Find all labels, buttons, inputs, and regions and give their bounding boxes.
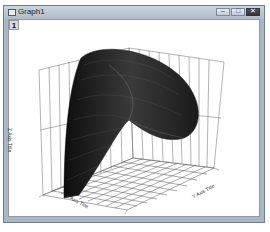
- title-bar[interactable]: Graph1 – □ ✕: [4, 6, 264, 19]
- window-title: Graph1: [18, 7, 45, 16]
- close-icon: ✕: [247, 7, 259, 15]
- minimize-button[interactable]: –: [216, 8, 230, 16]
- graph-window: Graph1 – □ ✕ 1: [3, 5, 265, 223]
- maximize-icon: □: [232, 7, 244, 14]
- window-controls: – □ ✕: [216, 8, 260, 16]
- graph-window-icon: [8, 9, 16, 16]
- z-axis-title[interactable]: Z Axis Title: [7, 128, 13, 152]
- graph-page[interactable]: 1: [8, 19, 260, 217]
- surface-shape: [64, 49, 198, 198]
- close-button[interactable]: ✕: [246, 8, 260, 16]
- maximize-button[interactable]: □: [231, 8, 245, 16]
- 3d-surface-plot[interactable]: [9, 20, 261, 218]
- minimize-icon: –: [217, 7, 229, 14]
